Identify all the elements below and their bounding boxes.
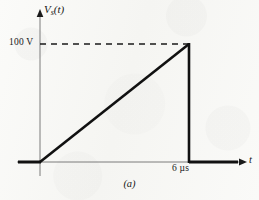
y-axis-tick-label-100v: 100 V bbox=[9, 38, 33, 48]
waveform-plot-canvas bbox=[0, 0, 259, 200]
x-axis-label: t bbox=[249, 155, 252, 166]
figure-caption: (a) bbox=[0, 179, 259, 190]
x-axis-arrowhead bbox=[239, 159, 247, 166]
waveform-figure: Vs(t) 100 V 6 µs t (a) bbox=[0, 0, 259, 200]
y-axis-label: Vs(t) bbox=[44, 4, 64, 17]
y-axis-label-symbol: V bbox=[44, 3, 51, 15]
y-axis-arrowhead bbox=[37, 9, 44, 17]
y-axis-label-argument: (t) bbox=[54, 3, 64, 15]
x-axis-tick-label-6us: 6 µs bbox=[172, 164, 189, 174]
signal-trace-ramp bbox=[40, 44, 189, 162]
